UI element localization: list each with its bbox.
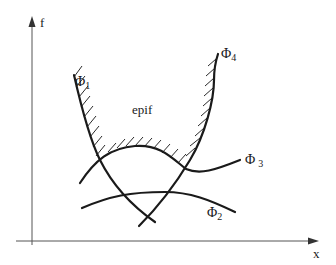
labels: epif Φ1 Φ4 Φ3 Φ2 [75,46,263,222]
epigraph-diagram: f x [0,0,336,265]
x-axis-label: x [313,246,320,261]
region-label-epif: epif [132,102,153,117]
label-phi2: Φ2 [207,205,222,222]
y-axis-arrow-icon [29,16,36,27]
curve-phi3 [80,146,240,183]
label-phi3: Φ3 [245,152,263,169]
label-phi1: Φ1 [75,74,90,91]
y-axis-label: f [40,15,45,30]
x-axis-arrow-icon [308,238,319,245]
label-phi4: Φ4 [221,46,236,63]
curve-phi1 [74,75,155,222]
axes: f x [16,15,320,261]
